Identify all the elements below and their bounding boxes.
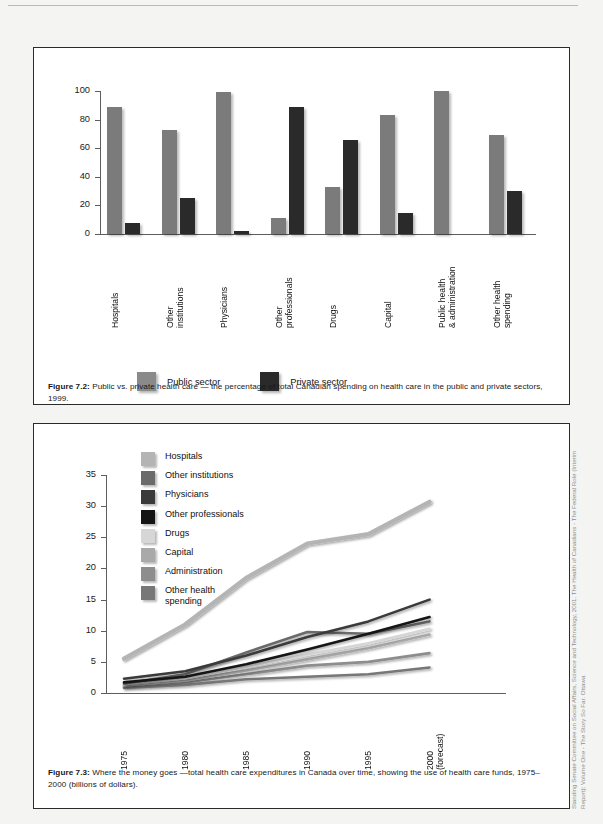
- bar-chart: 020406080100HospitalsOther institutionsP…: [34, 48, 571, 406]
- bar-y-tick-label: 80: [64, 114, 90, 124]
- figure-7-3-caption: Figure 7.3: Where the money goes —total …: [48, 767, 556, 790]
- figure-7-3-caption-text: Where the money goes —total health care …: [48, 768, 540, 789]
- line-legend-item: Hospitals: [141, 451, 244, 470]
- bar-y-tick: [95, 91, 100, 92]
- bar-x-axis-label: Physicians: [219, 240, 229, 328]
- line-chart: 05101520253035197519801985199019952000 (…: [34, 424, 571, 810]
- bar-x-axis-label: Drugs: [328, 240, 338, 328]
- bar-private: [125, 223, 140, 234]
- bar-public: [380, 115, 395, 234]
- bar-private: [507, 191, 522, 234]
- source-credit: Standing Senate Committee on Social Affa…: [570, 437, 587, 809]
- bar-y-tick: [95, 234, 100, 235]
- line-legend-item: Capital: [141, 547, 244, 566]
- line-legend-swatch: [141, 471, 155, 485]
- bar-private: [289, 107, 304, 234]
- bar-public: [434, 91, 449, 234]
- line-legend-swatch: [141, 452, 155, 466]
- line-legend-item: Drugs: [141, 528, 244, 547]
- line-x-axis-label: 1985: [241, 700, 251, 770]
- line-legend-item: Other professionals: [141, 509, 244, 528]
- line-legend-label: Hospitals: [165, 451, 202, 462]
- line-legend-label: Capital: [165, 547, 193, 558]
- line-legend-swatch: [141, 490, 155, 504]
- bar-y-tick: [95, 205, 100, 206]
- bar-y-axis: [100, 91, 101, 234]
- line-x-axis-label: 1980: [180, 700, 190, 770]
- figure-7-3-box: 05101520253035197519801985199019952000 (…: [33, 423, 570, 809]
- bar-y-tick-label: 100: [64, 85, 90, 95]
- line-legend-item: Physicians: [141, 489, 244, 508]
- bar-y-tick: [95, 177, 100, 178]
- line-chart-legend: HospitalsOther institutionsPhysiciansOth…: [141, 451, 244, 605]
- figure-7-2-box: 020406080100HospitalsOther institutionsP…: [33, 47, 570, 405]
- line-legend-swatch: [141, 567, 155, 581]
- bar-x-axis-label: Hospitals: [110, 240, 120, 328]
- line-legend-label: Drugs: [165, 528, 189, 539]
- bar-y-tick-label: 40: [64, 171, 90, 181]
- bar-private: [234, 231, 249, 234]
- bar-y-tick-label: 20: [64, 199, 90, 209]
- bar-x-axis: [100, 234, 536, 235]
- line-legend-item: Other health spending: [141, 585, 244, 604]
- bar-public: [489, 135, 504, 234]
- bar-x-axis-label: Other health spending: [492, 240, 512, 328]
- bar-y-tick: [95, 148, 100, 149]
- bar-private: [398, 213, 413, 234]
- bar-public: [271, 218, 286, 234]
- bar-private: [343, 140, 358, 234]
- line-legend-label: Other professionals: [165, 509, 244, 520]
- bar-y-tick-label: 0: [64, 228, 90, 238]
- page-background: 020406080100HospitalsOther institutionsP…: [0, 0, 603, 824]
- bar-x-axis-label: Capital: [383, 240, 393, 328]
- line-legend-swatch: [141, 529, 155, 543]
- line-legend-swatch: [141, 586, 155, 600]
- bar-y-tick: [95, 120, 100, 121]
- bar-x-axis-label: Other institutions: [165, 240, 185, 328]
- bar-public: [107, 107, 122, 234]
- figure-7-2-caption-label: Figure 7.2:: [48, 382, 90, 391]
- bar-public: [325, 187, 340, 234]
- bar-x-axis-label: Public health & administration: [437, 240, 457, 328]
- line-x-axis-label: 2000 (forecast): [425, 700, 445, 770]
- line-legend-item: Administration: [141, 566, 244, 585]
- bar-private: [180, 198, 195, 234]
- line-x-axis-label: 1995: [363, 700, 373, 770]
- figure-7-3-caption-label: Figure 7.3:: [48, 768, 90, 777]
- line-legend-label: Other institutions: [165, 470, 233, 481]
- page-top-rule: [8, 5, 578, 6]
- line-legend-label: Other health spending: [165, 585, 215, 606]
- line-legend-item: Other institutions: [141, 470, 244, 489]
- figure-7-2-caption-text: Public vs. private health care — the per…: [48, 382, 543, 403]
- line-x-axis-label: 1975: [119, 700, 129, 770]
- line-x-axis-label: 1990: [302, 700, 312, 770]
- line-legend-label: Physicians: [165, 489, 208, 500]
- figure-7-2-caption: Figure 7.2: Public vs. private health ca…: [48, 381, 556, 404]
- line-legend-swatch: [141, 510, 155, 524]
- bar-public: [162, 130, 177, 234]
- line-legend-label: Administration: [165, 566, 223, 577]
- bar-x-axis-label: Other professionals: [274, 240, 294, 328]
- bar-public: [216, 92, 231, 234]
- bar-y-tick-label: 60: [64, 142, 90, 152]
- line-legend-swatch: [141, 548, 155, 562]
